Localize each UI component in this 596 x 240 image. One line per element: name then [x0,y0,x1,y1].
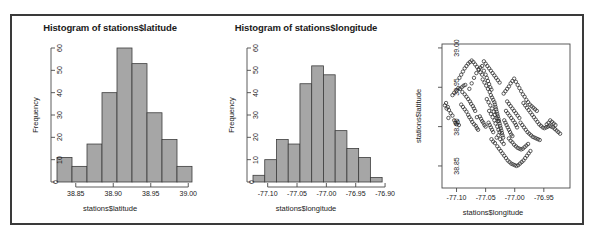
x-tick-label: -77.05 [287,190,307,197]
scatter-point [502,92,505,95]
x-tick-label: -77.00 [505,194,525,201]
histogram-bar [87,144,102,182]
scatter-point [473,63,476,66]
histogram-bar [347,149,359,183]
scatter-point [507,102,510,105]
histogram-bar [370,178,382,182]
scatter-point [484,62,487,65]
y-tick-label: 38.85 [453,157,460,175]
scatter-point [460,103,463,106]
scatter-point [490,138,493,141]
scatter-point [512,109,515,112]
y-tick-label: 50 [56,66,63,74]
scatter-point [527,108,530,111]
scatter-point [503,154,506,157]
scatter-point [527,152,530,155]
scatter-point [529,149,532,152]
scatter-point [501,134,504,137]
y-tick-label: 30 [252,111,259,119]
scatter-point [525,98,528,101]
histogram-latitude-title: Histogram of stations$latitude [12,22,208,33]
histogram-bar [162,140,177,182]
histogram-bar [117,48,132,182]
scatter-point [482,60,485,63]
scatter-point [479,71,482,74]
scatter-point [468,87,471,90]
scatter-point [494,105,497,108]
scatter-point [506,112,509,115]
scatter-point [534,118,537,121]
y-tick-label: 40 [56,89,63,97]
scatter-point [496,79,499,82]
scatter-point [518,116,521,119]
scatter-point [508,114,511,117]
y-tick-label: 40 [252,89,259,97]
scatter-point [509,104,512,107]
scatter-point [521,123,524,126]
y-tick-label: 20 [252,133,259,141]
histogram-bar [323,75,335,182]
y-tick-label: 0 [248,180,255,184]
scatter-point [475,65,478,68]
scatter-point [536,120,539,123]
scatter-x-axis-title: stations$longitude [404,208,582,217]
scatter-point [449,112,452,115]
scatter-point [498,122,501,125]
scatter-point [498,81,501,84]
x-tick-label: -77.05 [476,194,496,201]
y-tick-label: 50 [252,66,259,74]
scatter-point [486,64,489,67]
y-tick-label: 10 [252,156,259,164]
scatter-point [505,100,508,103]
histogram-bar [335,131,347,182]
x-tick-label: -77.10 [258,190,278,197]
scatter-point [493,74,496,77]
y-tick-label: 20 [56,133,63,141]
histogram-bar [288,144,300,182]
histogram-bar [72,166,87,182]
histogram-longitude-x-axis-title: stations$longitude [208,204,404,213]
histogram-bar [312,66,324,182]
figure-frame: Histogram of stations$latitude Frequency… [10,14,584,225]
scatter-point [511,119,514,122]
scatter-point [529,111,532,114]
scatter-point [526,101,529,104]
y-tick-label: 39.00 [453,39,460,57]
scatter-point [497,134,500,137]
y-tick-label: 10 [56,156,63,164]
scatter-point [511,107,514,110]
histogram-bar [102,93,117,182]
scatter-point [480,73,483,76]
scatter-point [510,116,513,119]
scatter-point [530,113,533,116]
histogram-bar [359,157,371,182]
scatter-point [504,109,507,112]
scatter-point [500,140,503,143]
y-tick-label: 0 [52,180,59,184]
scatter-point [524,128,527,131]
scatter-point [522,101,525,104]
y-tick-label: 38.90 [453,118,460,136]
scatter-point [466,97,469,100]
scatter-point [491,71,494,74]
scatter-point [511,79,514,82]
histogram-longitude-y-axis-title: Frequency [227,97,236,132]
scatter-point [487,67,490,70]
scatter-point [525,106,528,109]
y-tick-label: 38.95 [453,79,460,97]
x-tick-label: 38.95 [142,190,160,197]
scatter-point [465,64,468,67]
scatter-point [463,67,466,70]
x-tick-label: 38.85 [67,190,85,197]
histogram-bar [276,140,288,182]
scatter-point [505,87,508,90]
scatter-point [519,121,522,124]
x-tick-label: 38.90 [104,190,122,197]
scatter-point [521,93,524,96]
histogram-latitude-x-axis-title: stations$latitude [12,204,208,213]
y-tick-label: 60 [56,44,63,52]
x-tick-label: -76.95 [346,190,366,197]
x-tick-label: 39.00 [179,190,197,197]
scatter-point [482,69,485,72]
scatter-point [509,82,512,85]
